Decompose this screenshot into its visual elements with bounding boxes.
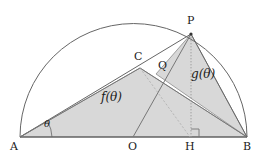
vertex-label-P: P bbox=[187, 15, 194, 26]
vertex-label-H: H bbox=[185, 141, 195, 152]
vertex-label-B: B bbox=[243, 141, 251, 152]
angle-label-theta: θ bbox=[44, 119, 50, 129]
vertex-label-O: O bbox=[128, 141, 137, 152]
figure-canvas bbox=[0, 0, 279, 162]
vertex-label-A: A bbox=[10, 141, 18, 152]
region-label-f: f(θ) bbox=[101, 91, 122, 103]
region-label-g: g(θ) bbox=[191, 68, 215, 80]
vertex-label-Q: Q bbox=[158, 60, 167, 71]
vertex-dot-P bbox=[189, 32, 192, 35]
geometry-figure: A O H B P C Q f(θ) g(θ) θ bbox=[0, 0, 279, 162]
vertex-label-C: C bbox=[134, 51, 142, 62]
